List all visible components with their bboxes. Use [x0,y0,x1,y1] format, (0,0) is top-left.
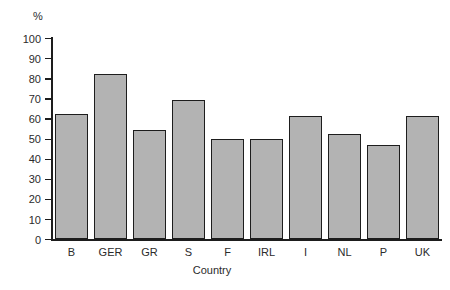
bar [55,114,88,239]
bar [328,134,361,239]
y-axis-tick: 100 [45,38,52,39]
y-axis-tick: 50 [45,139,52,140]
y-axis-tick: 0 [45,239,52,240]
y-axis-tick-label: 80 [29,73,41,84]
y-axis-tick: 40 [45,159,52,160]
x-axis-tick-label: NL [325,246,364,259]
x-axis-tick-label: P [364,246,403,259]
bar [250,139,283,240]
y-axis-tick-label: 100 [23,33,41,44]
y-axis-tick: 80 [45,78,52,79]
y-axis-tick: 20 [45,199,52,200]
bar [172,100,205,239]
y-axis-tick-label: 90 [29,53,41,64]
y-axis-tick: 30 [45,179,52,180]
bar [289,116,322,239]
x-axis-tick-label: I [286,246,325,259]
x-axis-tick-label: GER [91,246,130,259]
y-axis-tick: 70 [45,98,52,99]
y-axis-tick-label: 10 [29,214,41,225]
x-axis-tick-label: F [208,246,247,259]
y-axis-tick-label: 60 [29,114,41,125]
y-axis-tick-label: 20 [29,194,41,205]
x-axis-title: Country [0,264,437,277]
x-axis-tick-label: GR [130,246,169,259]
y-axis-tick-label: 0 [35,234,41,245]
plot-area [52,38,442,239]
x-axis-tick-label: S [169,246,208,259]
y-axis-tick-label: 70 [29,93,41,104]
x-axis-tick-label: UK [403,246,442,259]
y-axis-tick: 60 [45,118,52,119]
y-axis-tick-label: 50 [29,134,41,145]
x-axis-line [51,239,442,241]
y-axis-unit-label: % [33,10,43,22]
bar [367,145,400,239]
y-axis-tick-label: 40 [29,154,41,165]
bar [211,139,244,240]
x-axis-tick-label: IRL [247,246,286,259]
bar [406,116,439,239]
x-axis-tick-label: B [52,246,91,259]
bar [94,74,127,239]
y-axis-tick: 90 [45,58,52,59]
bar-chart-figure: % 0102030405060708090100 BGERGRSFIRLINLP… [0,0,450,290]
y-axis-tick-label: 30 [29,174,41,185]
bar [133,130,166,239]
y-axis-tick: 10 [45,219,52,220]
